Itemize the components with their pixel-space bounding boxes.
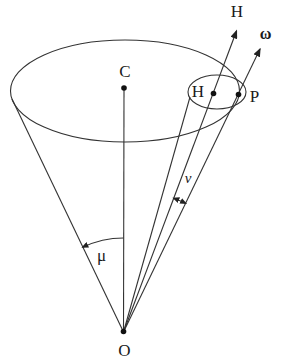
point-c-dot — [121, 85, 127, 91]
p-point-label: P — [250, 87, 259, 106]
cone-precession-figure: H ω C H P O μ ν — [0, 0, 284, 363]
mu-angle-label: μ — [97, 246, 106, 265]
point-h-dot — [211, 91, 217, 97]
point-o-dot — [121, 329, 127, 335]
axis-line — [124, 90, 125, 332]
omega-vector-label: ω — [260, 25, 272, 42]
h-point-label: H — [192, 82, 204, 101]
h-vector-label: H — [231, 2, 243, 21]
nu-angle-label: ν — [185, 170, 192, 186]
origin-o-label: O — [118, 341, 130, 360]
center-c-label: C — [119, 62, 130, 81]
cone-base-ellipse — [11, 40, 240, 142]
diagram-canvas: H ω C H P O μ ν — [0, 0, 284, 363]
cone-left-edge-line — [12, 99, 124, 332]
nu-angle-arc — [174, 198, 186, 203]
point-p-dot — [236, 92, 242, 98]
h-vector-arrow — [124, 31, 237, 332]
